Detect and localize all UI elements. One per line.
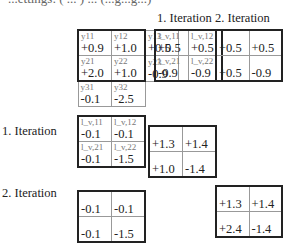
value-cell: +1.3 [216,186,249,212]
row-label-iteration-2: 2. Iteration [2,186,57,201]
value-cell: +1.0 [149,152,183,178]
cropped-caption: ...ettings: ( ... ) ... (...g...g...) [8,0,151,7]
center-iter1-matrix: +1.3 +1.4 +1.0 -1.4 [148,125,217,178]
l-cell: l_v,21-0.1 [78,142,112,168]
header-iteration-2: 2. Iteration [215,11,270,26]
header-iteration-1: 1. Iteration [157,11,212,26]
y-cell: y31-0.1 [78,81,112,107]
l-cell: l_v,22-1.5 [112,142,146,168]
value-cell: -1.4 [183,152,217,178]
y-cell: y21+2.0 [78,56,112,82]
empty-cell [145,81,179,107]
value-cell: +0.5 [249,30,282,56]
l-cell: l_v,21-0.9 [155,56,189,82]
l-left-matrix: l_v,11-0.1 l_v,12-0.1 l_v,21-0.1 l_v,22-… [77,115,146,168]
l-cell: l_v,11-0.1 [78,116,112,142]
value-cell: +2.4 [216,212,249,238]
l-cell: l_v,11+0.5 [155,30,189,56]
y-cell: y11+0.9 [78,30,112,56]
value-cell: -0.1 [78,217,112,243]
l-cell: l_v,12-0.1 [112,116,146,142]
value-cell: -0.9 [249,56,282,82]
y-cell: y12+1.0 [112,30,146,56]
l-top-matrix: l_v,11+0.5 l_v,12+0.5 l_v,21-0.9 l_v,22-… [154,29,223,82]
value-cell: -1.4 [249,212,282,238]
y-cell: y32-2.5 [112,81,146,107]
value-cell: +0.5 [216,30,249,56]
value-cell: +0.5 [216,56,249,82]
value-cell: +1.3 [149,126,183,152]
value-cell: +1.4 [249,186,282,212]
row-label-iteration-1: 1. Iteration [2,124,57,139]
left-iter2-matrix: -0.1 -0.1 -0.1 -1.5 [77,190,146,243]
y-cell: y22+1.0 [112,56,146,82]
value-cell: -0.1 [78,191,112,217]
value-cell: -0.1 [112,191,146,217]
value-cell: -1.5 [112,217,146,243]
right-iter2-matrix: +1.3 +1.4 +2.4 -1.4 [215,185,283,238]
top-iter2-matrix: +0.5 +0.5 +0.5 -0.9 [215,29,283,82]
value-cell: +1.4 [183,126,217,152]
